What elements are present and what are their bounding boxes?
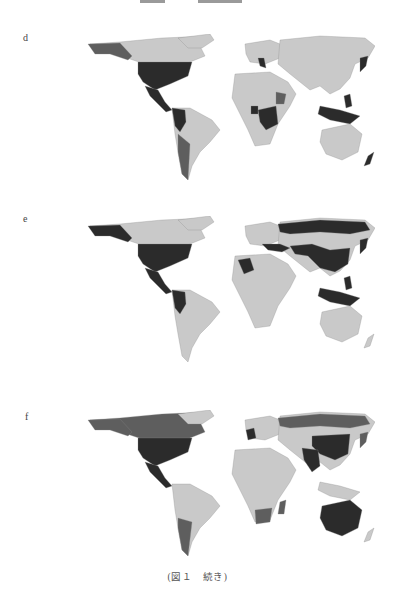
header-rule-left — [140, 0, 165, 3]
world-map-e — [50, 216, 375, 366]
panel-label-e: e — [23, 213, 27, 224]
header-rule-right — [198, 0, 242, 3]
panel-label-d: d — [23, 32, 28, 43]
figure-caption: (図１ 続き) — [0, 569, 395, 583]
world-map-d — [50, 34, 375, 184]
world-map-f — [50, 410, 375, 560]
panel-label-f: f — [25, 411, 28, 422]
